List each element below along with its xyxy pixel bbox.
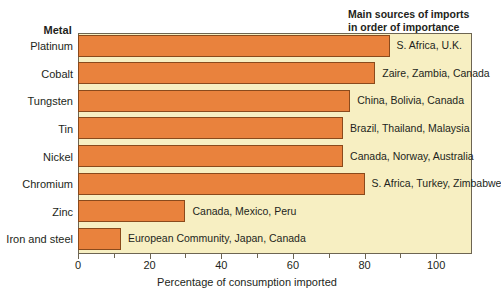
sources-column-header-line1: Main sources of imports xyxy=(348,8,469,20)
source-annotation: China, Bolivia, Canada xyxy=(357,94,464,106)
bar xyxy=(78,117,343,139)
category-label: Iron and steel xyxy=(0,233,73,245)
category-label: Chromium xyxy=(0,178,73,190)
x-tick-label: 0 xyxy=(75,259,81,271)
x-tick-label: 80 xyxy=(358,259,370,271)
x-minor-tick xyxy=(257,254,258,258)
x-minor-tick xyxy=(329,254,330,258)
category-label: Cobalt xyxy=(0,68,73,80)
category-label: Platinum xyxy=(0,40,73,52)
x-minor-tick xyxy=(400,254,401,258)
bar-row: Zaire, Zambia, Canada xyxy=(78,61,472,89)
sources-column-header-line2: in order of importance xyxy=(348,21,494,34)
bar xyxy=(78,90,350,112)
x-tick-label: 20 xyxy=(144,259,156,271)
source-annotation: Zaire, Zambia, Canada xyxy=(382,67,489,79)
x-tick-label: 40 xyxy=(215,259,227,271)
bar-row: S. Africa, U.K. xyxy=(78,33,472,61)
source-annotation: S. Africa, U.K. xyxy=(397,39,462,51)
bar-row: Canada, Mexico, Peru xyxy=(78,199,472,227)
source-annotation: European Community, Japan, Canada xyxy=(128,232,306,244)
sources-column-header: Main sources of imports in order of impo… xyxy=(348,8,494,33)
bar xyxy=(78,200,185,222)
bar xyxy=(78,35,390,57)
x-tick-label: 60 xyxy=(287,259,299,271)
bar-row: China, Bolivia, Canada xyxy=(78,88,472,116)
bars-layer: S. Africa, U.K.Zaire, Zambia, CanadaChin… xyxy=(78,33,472,254)
source-annotation: Canada, Norway, Australia xyxy=(350,150,474,162)
source-annotation: S. Africa, Turkey, Zimbabwe xyxy=(372,177,501,189)
bar xyxy=(78,173,365,195)
x-tick-label: 100 xyxy=(427,259,445,271)
category-label: Nickel xyxy=(0,151,73,163)
bar-row: Brazil, Thailand, Malaysia xyxy=(78,116,472,144)
category-label: Tungsten xyxy=(0,95,73,107)
bar xyxy=(78,228,121,250)
source-annotation: Canada, Mexico, Peru xyxy=(192,205,296,217)
x-minor-tick xyxy=(185,254,186,258)
category-label: Zinc xyxy=(0,206,73,218)
bar xyxy=(78,145,343,167)
metal-column-header: Metal xyxy=(0,24,72,36)
bar xyxy=(78,62,375,84)
bar-row: European Community, Japan, Canada xyxy=(78,226,472,254)
category-label: Tin xyxy=(0,123,73,135)
bar-row: S. Africa, Turkey, Zimbabwe xyxy=(78,171,472,199)
x-minor-tick xyxy=(114,254,115,258)
x-axis-title: Percentage of consumption imported xyxy=(0,276,494,288)
bar-row: Canada, Norway, Australia xyxy=(78,144,472,172)
source-annotation: Brazil, Thailand, Malaysia xyxy=(350,122,469,134)
x-axis-line xyxy=(78,253,472,254)
